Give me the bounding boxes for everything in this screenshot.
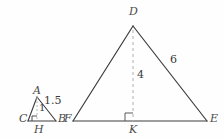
vertex-label-K: K bbox=[129, 124, 137, 135]
measure-label-AB-1-5: 1.5 bbox=[44, 95, 62, 106]
measure-label-DE-6: 6 bbox=[170, 54, 177, 65]
measure-label-AH-1: 1 bbox=[39, 103, 45, 113]
vertex-label-C: C bbox=[19, 113, 27, 124]
vertex-label-D: D bbox=[129, 6, 138, 17]
vertex-label-E: E bbox=[210, 113, 218, 124]
vertex-label-F: F bbox=[64, 113, 72, 124]
right-angle-mark-H bbox=[32, 116, 37, 121]
segment-DE bbox=[133, 26, 207, 121]
segment-CA bbox=[28, 97, 37, 121]
geometry-figure-canvas: A C B H 1.5 1 D F E K 6 4 bbox=[0, 0, 224, 139]
measure-label-DK-4: 4 bbox=[137, 69, 144, 80]
segment-FD bbox=[73, 26, 133, 121]
right-angle-mark-K bbox=[125, 113, 133, 121]
vertex-label-H: H bbox=[34, 124, 44, 135]
geometry-drawing bbox=[0, 0, 224, 139]
vertex-label-A: A bbox=[33, 85, 41, 96]
